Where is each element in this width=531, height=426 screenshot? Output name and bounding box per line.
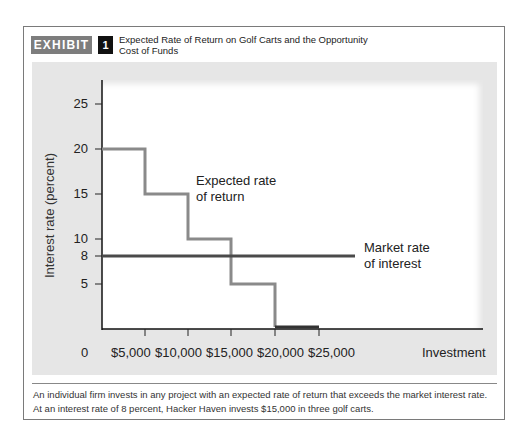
- y-axis-label: Interest rate (percent): [42, 136, 57, 296]
- xtick-25000: $25,000: [308, 345, 355, 360]
- exhibit-caption: An individual firm invests in any projec…: [33, 388, 503, 416]
- xtick-20000: $20,000: [257, 345, 304, 360]
- x-axis-label: Investment: [422, 345, 486, 360]
- caption-divider: [32, 383, 497, 384]
- step-chart: [0, 0, 531, 426]
- x-ticks: [145, 329, 319, 336]
- y-ticks: [95, 104, 102, 284]
- ytick-25: 25: [58, 96, 88, 111]
- expected-return-annotation: Expected rate of return: [196, 173, 276, 205]
- ytick-15: 15: [58, 186, 88, 201]
- caption-line-2: At an interest rate of 8 percent, Hacker…: [33, 402, 503, 416]
- xtick-0: 0: [81, 345, 88, 360]
- xtick-10000: $10,000: [155, 345, 202, 360]
- xtick-5000: $5,000: [111, 345, 151, 360]
- market-rate-annotation: Market rate of interest: [364, 240, 430, 272]
- ytick-8: 8: [58, 248, 88, 263]
- caption-line-1: An individual firm invests in any projec…: [33, 388, 503, 402]
- ytick-5: 5: [58, 276, 88, 291]
- xtick-15000: $15,000: [206, 345, 253, 360]
- ytick-20: 20: [58, 141, 88, 156]
- ytick-10: 10: [58, 231, 88, 246]
